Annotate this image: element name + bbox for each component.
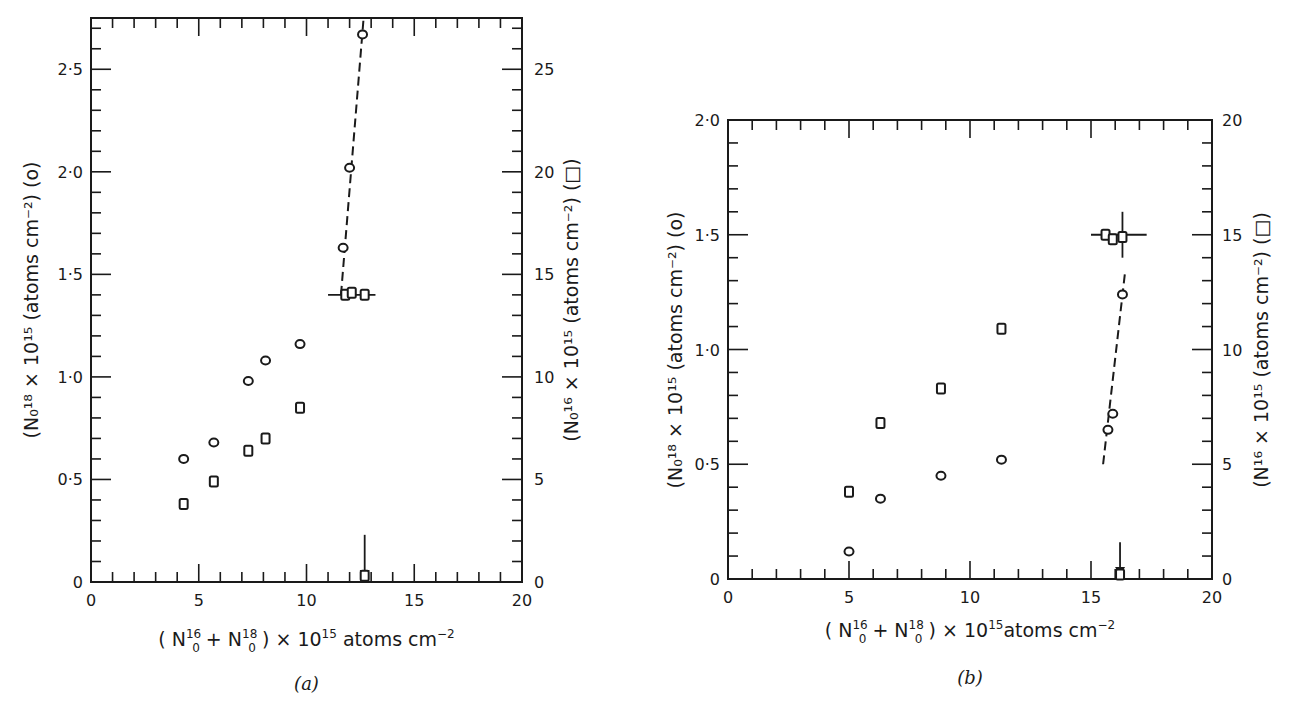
y-right-tick-label: 15	[1222, 226, 1242, 245]
dashed-fit-line	[1103, 274, 1125, 464]
square-data-point	[845, 487, 853, 497]
circle-data-point	[845, 547, 854, 555]
y-left-tick-label: 1·5	[58, 265, 83, 284]
circle-data-point	[261, 357, 270, 365]
square-data-point	[180, 499, 188, 509]
y-left-axis-label: (N₀¹⁸ × 10¹⁵ (atoms cm⁻²) (o)	[664, 211, 686, 488]
square-data-point	[244, 446, 252, 456]
y-left-tick-label: 1·0	[58, 368, 83, 387]
x-tick-label: 10	[296, 591, 316, 610]
y-right-tick-label: 10	[1222, 341, 1242, 360]
y-right-axis-label: (N¹⁶ × 10¹⁵ (atoms cm⁻²) (□)	[1250, 212, 1272, 488]
circle-data-point	[1108, 410, 1117, 418]
circle-data-point	[876, 495, 885, 503]
square-data-point	[876, 418, 884, 428]
x-tick-label: 5	[844, 588, 854, 607]
x-tick-label: 5	[194, 591, 204, 610]
square-data-point	[296, 403, 304, 413]
y-left-tick-label: 2·5	[58, 60, 83, 79]
x-tick-label: 15	[1081, 588, 1101, 607]
circle-data-point	[179, 455, 188, 463]
square-data-point	[937, 384, 945, 394]
y-right-tick-label: 10	[534, 368, 554, 387]
y-right-tick-label: 5	[1222, 455, 1232, 474]
square-data-point	[997, 324, 1005, 334]
x-tick-label: 15	[404, 591, 424, 610]
y-left-tick-label: 0·5	[695, 455, 720, 474]
y-left-axis-label: (N₀¹⁸ × 10¹⁵ (atoms cm⁻²) (o)	[20, 161, 42, 438]
circle-data-point	[936, 472, 945, 480]
square-data-point	[1118, 232, 1126, 242]
square-data-point	[210, 477, 218, 487]
y-right-tick-label: 15	[534, 265, 554, 284]
chart-panel-a: 0510152000·51·01·52·02·50510152025( N160…	[20, 18, 582, 694]
y-left-tick-label: 0·5	[58, 470, 83, 489]
plot-frame	[91, 18, 522, 582]
square-data-point	[262, 433, 270, 443]
y-right-tick-label: 25	[534, 60, 554, 79]
square-data-point	[1116, 569, 1124, 579]
y-left-tick-label: 2·0	[58, 163, 83, 182]
plot-frame	[728, 120, 1212, 579]
circle-data-point	[997, 456, 1006, 464]
y-right-tick-label: 20	[534, 163, 554, 182]
y-left-tick-label: 1·5	[695, 226, 720, 245]
x-tick-label: 20	[512, 591, 532, 610]
dashed-fit-line	[341, 18, 364, 295]
x-tick-label: 20	[1202, 588, 1222, 607]
square-data-point	[348, 288, 356, 298]
x-tick-label: 0	[86, 591, 96, 610]
y-right-tick-label: 0	[1222, 570, 1232, 589]
circle-data-point	[358, 30, 367, 38]
chart-panel-b: 0510152000·51·01·52·005101520( N160 + N1…	[664, 111, 1272, 688]
square-data-point	[361, 571, 369, 581]
y-left-tick-label: 0	[710, 570, 720, 589]
figure-canvas: 0510152000·51·01·52·02·50510152025( N160…	[0, 0, 1302, 710]
y-right-axis-label: (N₀¹⁶ × 10¹⁵ (atoms cm⁻²) (□)	[560, 158, 582, 441]
y-left-tick-label: 0	[73, 573, 83, 592]
circle-data-point	[244, 377, 253, 385]
y-right-tick-label: 5	[534, 470, 544, 489]
panel-caption: (a)	[294, 673, 319, 694]
y-right-tick-label: 0	[534, 573, 544, 592]
circle-data-point	[1118, 290, 1127, 298]
x-axis-label: ( N160 + N180 ) × 1015atoms cm−2	[825, 618, 1115, 646]
x-tick-label: 10	[960, 588, 980, 607]
circle-data-point	[1103, 426, 1112, 434]
x-tick-label: 0	[723, 588, 733, 607]
panel-caption: (b)	[957, 667, 983, 688]
y-right-tick-label: 20	[1222, 111, 1242, 130]
circle-data-point	[209, 439, 218, 447]
circle-data-point	[345, 164, 354, 172]
square-data-point	[361, 290, 369, 300]
y-left-tick-label: 2·0	[695, 111, 720, 130]
y-left-tick-label: 1·0	[695, 341, 720, 360]
circle-data-point	[296, 340, 305, 348]
x-axis-label: ( N160 + N180 ) × 1015 atoms cm−2	[158, 627, 455, 655]
circle-data-point	[339, 244, 348, 252]
square-data-point	[1109, 234, 1117, 244]
